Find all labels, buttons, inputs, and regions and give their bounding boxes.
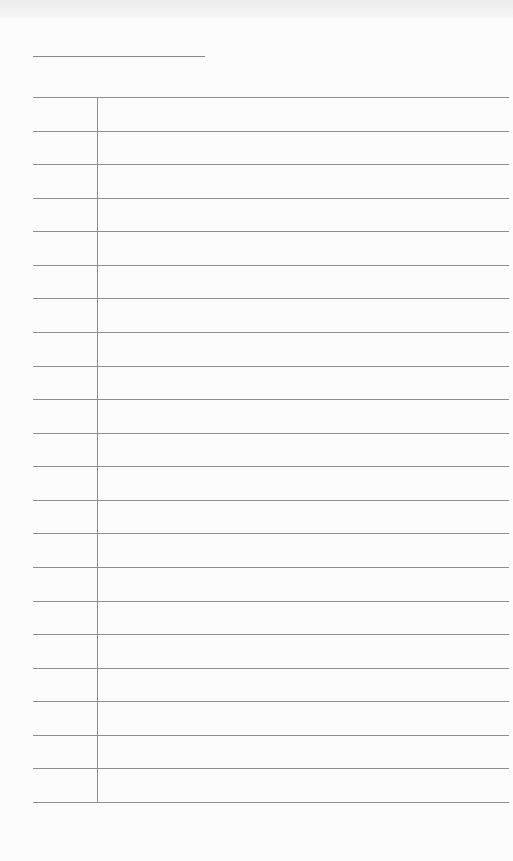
ruled-line (33, 164, 509, 165)
ruled-line (33, 735, 509, 736)
top-shadow-band (0, 0, 513, 18)
ruled-line (33, 433, 509, 434)
ruled-line (33, 634, 509, 635)
ruled-line (33, 701, 509, 702)
ruled-line (33, 466, 509, 467)
ruled-line (33, 231, 509, 232)
ruled-line (33, 802, 509, 803)
ruled-line (33, 500, 509, 501)
ruled-line (33, 298, 509, 299)
ruled-line (33, 567, 509, 568)
left-margin-line (97, 97, 98, 802)
ruled-line (33, 97, 509, 98)
title-line (33, 56, 205, 57)
ruled-line (33, 601, 509, 602)
ruled-line (33, 131, 509, 132)
ruled-line (33, 533, 509, 534)
ruled-line (33, 399, 509, 400)
ruled-line (33, 668, 509, 669)
ruled-line (33, 768, 509, 769)
ruled-line (33, 366, 509, 367)
ruled-line (33, 265, 509, 266)
ruled-line (33, 332, 509, 333)
ruled-line (33, 198, 509, 199)
